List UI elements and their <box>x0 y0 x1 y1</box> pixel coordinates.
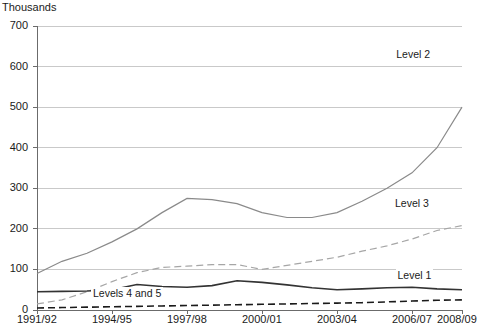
series-label-level-1: Level 1 <box>396 269 434 281</box>
x-axis-tick-label: 1991/92 <box>17 313 57 325</box>
y-axis-tick-label: 600 <box>0 60 28 72</box>
series-line-levels-4-and-5 <box>37 300 462 308</box>
x-axis-tick-label: 2003/04 <box>317 313 357 325</box>
series-line-level-2 <box>37 107 462 273</box>
y-axis-tick-label: 200 <box>0 222 28 234</box>
series-label-levels-4-and-5: Levels 4 and 5 <box>91 287 163 299</box>
y-axis-tick-label: 300 <box>0 181 28 193</box>
x-axis-tick-label: 1997/98 <box>167 313 207 325</box>
series-label-level-2: Level 2 <box>394 48 432 60</box>
y-axis-tick-label: 400 <box>0 141 28 153</box>
x-axis-tick-label: 1994/95 <box>92 313 132 325</box>
x-axis-tick-label: 2008/09 <box>437 313 477 325</box>
chart-container: Thousands 01002003004005006007001991/921… <box>0 0 478 329</box>
x-axis-tick-label: 2006/07 <box>392 313 432 325</box>
series-label-level-3: Level 3 <box>393 197 431 209</box>
y-axis-tick-label: 500 <box>0 100 28 112</box>
y-axis-tick-label: 700 <box>0 19 28 31</box>
y-axis-tick-label: 100 <box>0 262 28 274</box>
x-axis-tick-label: 2000/01 <box>242 313 282 325</box>
